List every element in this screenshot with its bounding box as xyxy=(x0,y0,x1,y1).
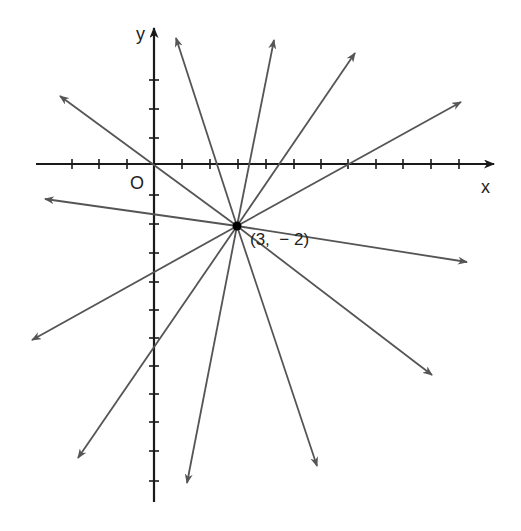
point-marker xyxy=(233,222,242,231)
point-label: (3, − 2) xyxy=(250,230,309,249)
line-3-ext xyxy=(187,226,237,483)
line-2 xyxy=(176,38,237,226)
x-axis-label: x xyxy=(481,177,490,197)
origin-label: O xyxy=(130,173,144,193)
coordinate-diagram: y x O (3, − 2) xyxy=(0,0,521,531)
line-4-ext xyxy=(78,226,237,458)
line-6 xyxy=(45,199,237,226)
line-5-ext xyxy=(32,226,237,340)
x-axis xyxy=(36,159,494,169)
y-axis-label: y xyxy=(136,24,145,44)
y-axis xyxy=(149,28,159,502)
line-2-ext xyxy=(237,226,317,466)
lines-through-point xyxy=(32,38,467,483)
